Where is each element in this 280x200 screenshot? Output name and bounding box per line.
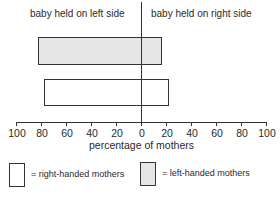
x-axis-title: percentage of mothers bbox=[0, 139, 280, 151]
tick-label: 100 bbox=[252, 127, 280, 139]
tick bbox=[266, 122, 267, 126]
legend-swatch-left-handed bbox=[140, 162, 156, 186]
tick bbox=[16, 122, 17, 126]
tick bbox=[241, 122, 242, 126]
right-side-header: baby held on right side bbox=[151, 8, 252, 19]
tick bbox=[166, 122, 167, 126]
tick bbox=[41, 122, 42, 126]
bar-left-handed bbox=[38, 37, 162, 65]
legend-label-right-handed: = right-handed mothers bbox=[31, 169, 124, 179]
bar-right-handed bbox=[44, 79, 169, 106]
tick bbox=[216, 122, 217, 126]
tick bbox=[141, 122, 142, 126]
tick bbox=[191, 122, 192, 126]
tick bbox=[116, 122, 117, 126]
legend-label-left-handed: = left-handed mothers bbox=[162, 168, 250, 178]
left-side-header: baby held on left side bbox=[30, 8, 125, 19]
zero-line bbox=[141, 2, 142, 122]
tick bbox=[66, 122, 67, 126]
tick bbox=[91, 122, 92, 126]
legend-swatch-right-handed bbox=[9, 163, 25, 187]
